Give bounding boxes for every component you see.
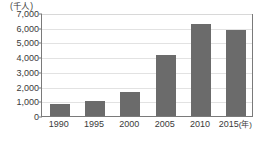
y-axis-tick-label: 5,000 xyxy=(16,39,39,48)
bar-chart: (千人) 7,0006,0005,0004,0003,0002,0001,000… xyxy=(0,0,270,141)
y-axis-tick-label: 0 xyxy=(34,113,39,122)
bar-2015 xyxy=(226,30,246,116)
y-axis-tick-label: 7,000 xyxy=(16,10,39,19)
x-axis-tick-text: 2015 xyxy=(219,119,239,129)
bar-2000 xyxy=(120,92,140,116)
x-axis-tick-label-2015: 2015(年) xyxy=(219,119,252,130)
y-tick-mark-0 xyxy=(39,117,42,118)
y-axis-tick-label: 2,000 xyxy=(16,83,39,92)
x-axis-tick-label-1995: 1995 xyxy=(84,119,104,129)
x-axis-tick-text: 1990 xyxy=(49,119,69,129)
x-axis-tick-text: 2010 xyxy=(190,119,210,129)
y-axis-tick-label: 1,000 xyxy=(16,98,39,107)
x-axis-tick-label-1990: 1990 xyxy=(49,119,69,129)
x-axis-tick-text: 2000 xyxy=(119,119,139,129)
x-axis-tick-text: 1995 xyxy=(84,119,104,129)
x-axis-tick-label-2000: 2000 xyxy=(119,119,139,129)
gridline-0 xyxy=(42,116,252,117)
x-axis-unit-suffix: (年) xyxy=(239,120,252,129)
bar-1995 xyxy=(85,101,105,116)
x-axis-tick-text: 2005 xyxy=(155,119,175,129)
y-axis-tick-label: 4,000 xyxy=(16,54,39,63)
x-axis-tick-label-2010: 2010 xyxy=(190,119,210,129)
bar-1990 xyxy=(50,104,70,116)
bar-2010 xyxy=(191,24,211,116)
y-axis-tick-label: 6,000 xyxy=(16,24,39,33)
plot-area: 7,0006,0005,0004,0003,0002,0001,0000 xyxy=(41,14,253,117)
bars-group xyxy=(42,14,252,116)
bar-2005 xyxy=(156,55,176,116)
x-axis-tick-label-2005: 2005 xyxy=(155,119,175,129)
y-axis-tick-label: 3,000 xyxy=(16,68,39,77)
